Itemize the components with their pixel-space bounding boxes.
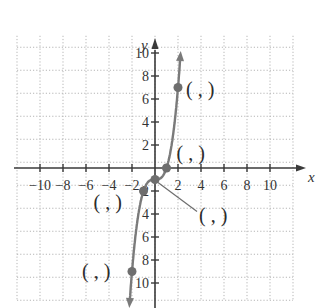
point-coordinate-label: ( , ) bbox=[94, 191, 122, 214]
point-coordinate-label: ( , ) bbox=[186, 78, 214, 101]
y-tick-label: 6 bbox=[142, 230, 149, 245]
x-tick-label: 4 bbox=[198, 178, 205, 193]
data-point bbox=[139, 187, 148, 196]
data-point bbox=[151, 175, 160, 184]
x-axis-label: x bbox=[307, 169, 315, 185]
x-tick-label: 2 bbox=[175, 178, 182, 193]
x-tick-label: −8 bbox=[56, 178, 71, 193]
data-point bbox=[128, 267, 137, 276]
x-tick-label: 10 bbox=[263, 178, 277, 193]
y-tick-label: 10 bbox=[135, 276, 149, 291]
y-tick-label: 8 bbox=[142, 253, 149, 268]
point-coordinate-label: ( , ) bbox=[199, 204, 227, 227]
curve-arrow-up-icon bbox=[176, 51, 184, 61]
y-axis-arrow-icon bbox=[152, 38, 159, 49]
x-axis-arrow-icon bbox=[296, 165, 306, 172]
x-tick-label: −2 bbox=[125, 178, 140, 193]
curve-arrow-down-icon bbox=[126, 298, 134, 308]
x-tick-label: 6 bbox=[221, 178, 228, 193]
point-coordinate-label: ( , ) bbox=[177, 142, 205, 165]
x-tick-label: 8 bbox=[244, 178, 251, 193]
y-tick-label: 6 bbox=[142, 92, 149, 107]
cubic-function-graph: xy −10−8−6−4−2246810108642246810 ( , )( … bbox=[0, 0, 320, 308]
data-point bbox=[162, 164, 171, 173]
point-coordinate-label: ( , ) bbox=[82, 260, 110, 283]
y-tick-label: 8 bbox=[142, 69, 149, 84]
data-point bbox=[174, 83, 183, 92]
y-tick-label: 10 bbox=[135, 46, 149, 61]
y-tick-label: 4 bbox=[142, 207, 149, 222]
x-tick-label: −10 bbox=[29, 178, 51, 193]
y-tick-label: 4 bbox=[142, 115, 149, 130]
y-tick-label: 2 bbox=[142, 138, 149, 153]
x-tick-label: −6 bbox=[79, 178, 94, 193]
